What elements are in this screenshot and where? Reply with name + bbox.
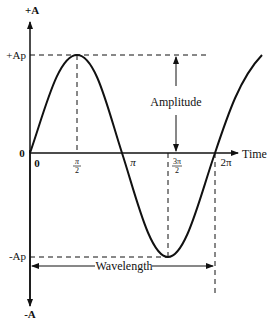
sine-wave-diagram: Amplitude Wavelength +A -A 0 +Ap -Ap Tim… xyxy=(0,0,276,330)
tick-3half-pi-den: 2 xyxy=(175,166,179,175)
tick-half-pi-den: 2 xyxy=(75,166,79,175)
positive-peak-label: +Ap xyxy=(6,49,26,61)
negative-peak-label: -Ap xyxy=(9,250,27,262)
wavelength-label: Wavelength xyxy=(95,259,152,273)
tick-2pi: 2π xyxy=(220,156,232,168)
tick-pi: π xyxy=(130,156,136,168)
tick-half-pi-num: π xyxy=(75,157,80,166)
amplitude-label: Amplitude xyxy=(150,95,201,109)
time-axis-label: Time xyxy=(242,147,267,161)
tick-3half-pi-num: 3π xyxy=(173,157,181,166)
origin-label: 0 xyxy=(19,147,25,159)
tick-0: 0 xyxy=(34,157,40,169)
y-top-label: +A xyxy=(25,4,39,16)
y-bottom-label: -A xyxy=(24,308,36,320)
